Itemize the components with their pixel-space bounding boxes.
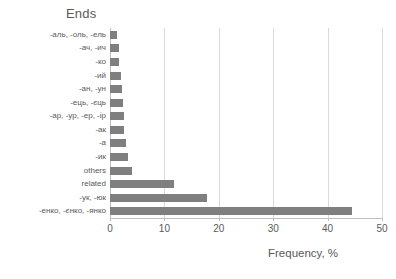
tick-label-30: 30 <box>258 223 288 234</box>
bar-row <box>110 207 382 215</box>
bar-chart: Ends -аль, -оль, -ель-ач, -ич-ко-ий-ан, … <box>0 0 396 279</box>
tick-mark-50 <box>382 218 383 221</box>
tick-label-50: 50 <box>367 223 396 234</box>
category-axis-labels: -аль, -оль, -ель-ач, -ич-ко-ий-ан, -ун-е… <box>0 28 106 218</box>
category-label: -ець, -єць <box>0 99 106 107</box>
bar-row <box>110 180 382 188</box>
category-label: -ук, -юк <box>0 194 106 202</box>
tick-mark-20 <box>219 218 220 221</box>
bar <box>110 112 124 120</box>
plot-area <box>110 28 382 218</box>
bar-row <box>110 44 382 52</box>
bar <box>110 31 117 39</box>
bar-row <box>110 99 382 107</box>
bar-row <box>110 72 382 80</box>
x-axis-line <box>110 218 382 219</box>
tick-mark-10 <box>164 218 165 221</box>
category-label: related <box>0 180 106 188</box>
bar-row <box>110 139 382 147</box>
category-label: -аль, -оль, -ель <box>0 31 106 39</box>
bar-row <box>110 194 382 202</box>
gridline-50 <box>382 28 383 218</box>
bar <box>110 58 119 66</box>
category-label: -ик <box>0 153 106 161</box>
category-label: -ар, -ур, -ер, -ір <box>0 112 106 120</box>
bar <box>110 139 126 147</box>
bar-row <box>110 167 382 175</box>
tick-mark-40 <box>328 218 329 221</box>
bar <box>110 44 119 52</box>
bar-row <box>110 112 382 120</box>
bar-row <box>110 126 382 134</box>
tick-label-10: 10 <box>149 223 179 234</box>
bar <box>110 167 132 175</box>
tick-mark-0 <box>110 218 111 221</box>
bar <box>110 126 124 134</box>
bar-row <box>110 85 382 93</box>
bar <box>110 180 174 188</box>
category-label: -енко, -єнко, -янко <box>0 207 106 215</box>
bar-row <box>110 153 382 161</box>
bar <box>110 153 128 161</box>
tick-label-20: 20 <box>204 223 234 234</box>
chart-title: Ends <box>66 6 96 21</box>
x-axis-title: Frequency, % <box>268 247 338 259</box>
bar <box>110 194 207 202</box>
tick-label-0: 0 <box>95 223 125 234</box>
bar <box>110 85 122 93</box>
category-label: -ий <box>0 72 106 80</box>
bar <box>110 72 121 80</box>
bar <box>110 207 352 215</box>
category-label: -ач, -ич <box>0 44 106 52</box>
category-label: -ак <box>0 126 106 134</box>
category-label: -ан, -ун <box>0 85 106 93</box>
bars-layer <box>110 28 382 218</box>
tick-mark-30 <box>273 218 274 221</box>
category-label: others <box>0 167 106 175</box>
category-label: -ко <box>0 58 106 66</box>
bar <box>110 99 123 107</box>
bar-row <box>110 58 382 66</box>
category-label: -а <box>0 139 106 147</box>
tick-label-40: 40 <box>313 223 343 234</box>
bar-row <box>110 31 382 39</box>
